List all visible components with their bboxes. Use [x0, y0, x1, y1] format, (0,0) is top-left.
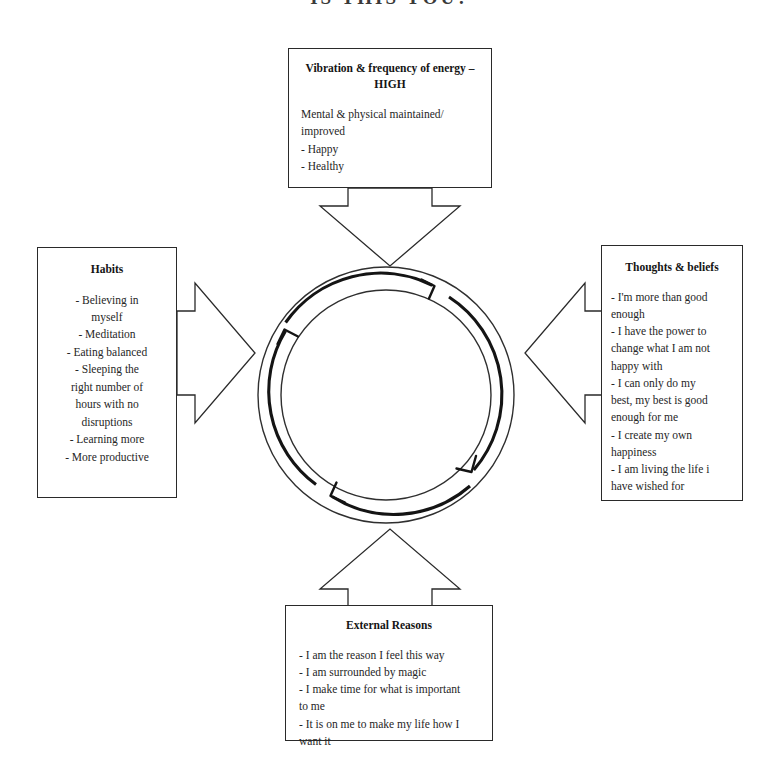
cycle-arrowhead-right-icon — [457, 456, 477, 472]
list-item: disruptions — [46, 414, 168, 431]
list-item: - Healthy — [301, 158, 479, 175]
box-thoughts-beliefs-heading: Thoughts & beliefs — [611, 260, 733, 276]
list-item: - It is on me to make my life how I — [299, 716, 479, 733]
list-item: happy with — [611, 358, 733, 375]
cycle-arc-2 — [449, 297, 502, 470]
list-item: - Eating balanced — [46, 344, 168, 361]
arrow-top-to-center-icon — [320, 188, 460, 266]
list-item: - Sleeping the — [46, 361, 168, 378]
box-thoughts-beliefs: Thoughts & beliefs - I'm more than good … — [601, 245, 743, 501]
list-item: - Meditation — [46, 326, 168, 343]
list-item: best, my best is good — [611, 392, 733, 409]
box-vibration-frequency-heading: Vibration & frequency of energy – HIGH — [301, 61, 479, 92]
list-item: - Happy — [301, 141, 479, 158]
box-habits: Habits - Believing in myself - Meditatio… — [37, 247, 177, 498]
list-item: - Believing in — [46, 292, 168, 309]
list-item: have wished for — [611, 478, 733, 495]
list-item: change what I am not — [611, 340, 733, 357]
list-item: - Learning more — [46, 431, 168, 448]
box-vibration-frequency-body: Mental & physical maintained/ improved -… — [301, 106, 479, 175]
box-external-reasons-heading: External Reasons — [299, 618, 479, 634]
cycle-arc-3 — [332, 486, 470, 514]
arrow-bottom-to-center-icon — [320, 529, 460, 607]
list-item: - More productive — [46, 449, 168, 466]
cycle-outer-circle — [258, 267, 514, 523]
arrow-left-to-center-icon — [177, 283, 255, 423]
box-vibration-frequency: Vibration & frequency of energy – HIGH M… — [288, 48, 492, 188]
list-item: enough for me — [611, 409, 733, 426]
list-item: want it — [299, 733, 479, 750]
list-item: - I can only do my — [611, 375, 733, 392]
list-item: - I'm more than good — [611, 289, 733, 306]
list-item: - I create my own — [611, 427, 733, 444]
cycle-arc-1 — [286, 273, 433, 322]
list-item: happiness — [611, 444, 733, 461]
list-item: - I am the reason I feel this way — [299, 647, 479, 664]
list-item: hours with no — [46, 396, 168, 413]
diagram-canvas: IS THIS YOU? — [0, 0, 780, 770]
list-item: enough — [611, 306, 733, 323]
list-item: improved — [301, 123, 479, 140]
list-item: right number of — [46, 379, 168, 396]
box-thoughts-beliefs-body: - I'm more than good enough - I have the… — [611, 289, 733, 496]
arrow-right-to-center-icon — [525, 283, 603, 423]
list-item: - I am surrounded by magic — [299, 664, 479, 681]
box-external-reasons: External Reasons - I am the reason I fee… — [285, 605, 493, 741]
list-item: - I make time for what is important — [299, 681, 479, 698]
list-item: Mental & physical maintained/ — [301, 106, 479, 123]
box-external-reasons-body: - I am the reason I feel this way - I am… — [299, 647, 479, 751]
list-item: - I have the power to — [611, 323, 733, 340]
box-habits-heading: Habits — [46, 262, 168, 278]
list-item: myself — [46, 309, 168, 326]
cycle-group — [258, 267, 514, 523]
list-item: to me — [299, 698, 479, 715]
list-item: - I am living the life i — [611, 461, 733, 478]
box-habits-body: - Believing in myself - Meditation - Eat… — [46, 292, 168, 467]
